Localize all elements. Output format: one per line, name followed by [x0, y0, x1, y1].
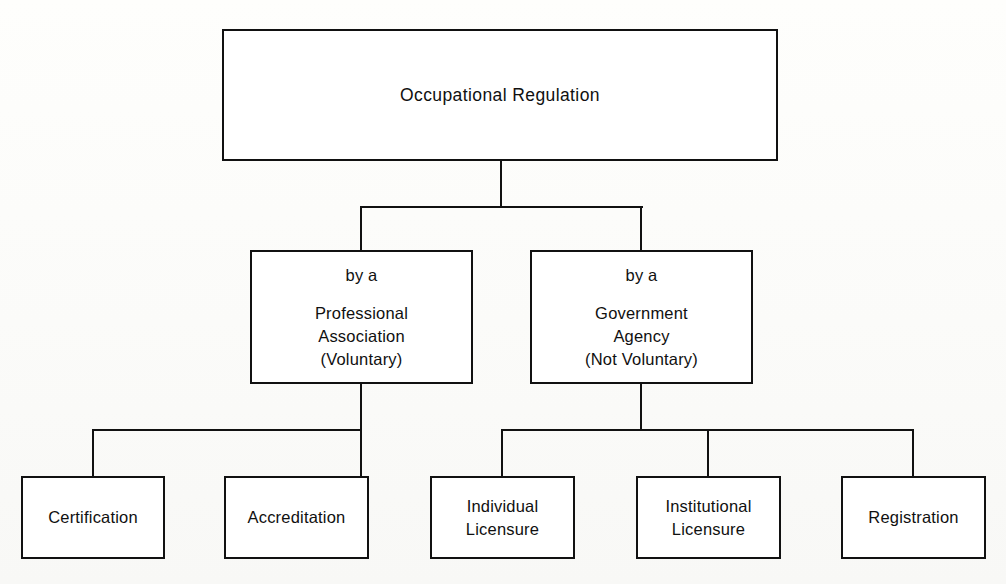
spacer	[538, 286, 745, 302]
node-label-institutional-licensure-line2: Licensure	[644, 518, 773, 541]
connector-to-government-agency	[640, 206, 642, 252]
node-label-professional-association-line3: (Voluntary)	[258, 348, 465, 371]
node-label-professional-association-line2: Association	[258, 325, 465, 348]
node-occupational-regulation: Occupational Regulation	[222, 29, 778, 161]
node-individual-licensure: Individual Licensure	[430, 476, 575, 559]
node-professional-association: by a Professional Association (Voluntary…	[250, 250, 473, 384]
connector-to-professional-association	[360, 206, 362, 252]
node-label-government-agency-line1: Government	[538, 302, 745, 325]
connector-to-individual-licensure	[501, 429, 503, 476]
connector-government-agency-stem	[640, 383, 642, 431]
node-label-occupational-regulation: Occupational Regulation	[230, 83, 770, 107]
node-label-professional-association-line1: Professional	[258, 302, 465, 325]
node-label-individual-licensure-line1: Individual	[438, 495, 567, 518]
diagram-canvas: Occupational Regulation by a Professiona…	[0, 0, 1006, 584]
node-prefix-government-agency: by a	[538, 264, 745, 287]
node-label-institutional-licensure-line1: Institutional	[644, 495, 773, 518]
node-label-registration: Registration	[849, 506, 978, 529]
connector-left-group-bus	[92, 429, 362, 431]
node-accreditation: Accreditation	[224, 476, 369, 559]
connector-to-institutional-licensure	[707, 429, 709, 476]
node-registration: Registration	[841, 476, 986, 559]
node-label-accreditation: Accreditation	[232, 506, 361, 529]
node-prefix-professional-association: by a	[258, 264, 465, 287]
node-certification: Certification	[21, 476, 165, 559]
connector-root-stem	[500, 160, 502, 208]
spacer	[258, 286, 465, 302]
connector-level2-bus	[360, 206, 643, 208]
node-label-government-agency-line3: (Not Voluntary)	[538, 348, 745, 371]
node-institutional-licensure: Institutional Licensure	[636, 476, 781, 559]
node-label-certification: Certification	[29, 506, 157, 529]
node-label-individual-licensure-line2: Licensure	[438, 518, 567, 541]
node-government-agency: by a Government Agency (Not Voluntary)	[530, 250, 753, 384]
connector-to-registration	[912, 429, 914, 476]
node-label-government-agency-line2: Agency	[538, 325, 745, 348]
connector-to-certification	[92, 429, 94, 476]
